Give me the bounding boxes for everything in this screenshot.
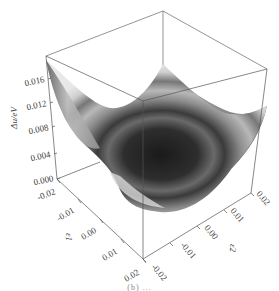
y-tick: 0.02 [254, 189, 272, 207]
z-tick: 0.012 [26, 98, 48, 112]
x-tick: -0.02 [36, 186, 57, 202]
y-tick: -0.02 [149, 262, 169, 283]
y-tick: 0.01 [228, 206, 246, 224]
box-back-edges [46, 11, 267, 69]
x-tick: -0.01 [55, 205, 76, 223]
z-axis-label: Δu/eV [9, 106, 19, 130]
x-axis-label: ε1 [64, 233, 74, 241]
z-tick: 0.008 [28, 122, 50, 136]
x-tick: 0.01 [100, 246, 119, 263]
x-tick: 0.00 [79, 225, 98, 242]
y-axis-label: ε2 [228, 244, 238, 253]
z-tick: 0.000 [33, 173, 55, 187]
x-tick: 0.02 [122, 267, 141, 284]
z-tick: 0.016 [24, 74, 46, 88]
z-tick: 0.004 [30, 149, 52, 163]
surface [46, 60, 267, 212]
y-tick: -0.01 [178, 240, 198, 261]
y-tick: 0.00 [202, 223, 220, 242]
figure-caption: (b) ... [0, 283, 279, 291]
